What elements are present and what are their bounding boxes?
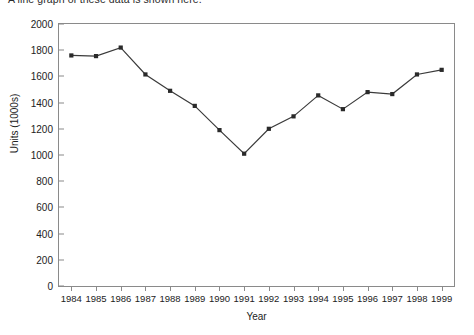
x-tick-mark <box>368 286 369 291</box>
y-tick-label: 1400 <box>31 97 59 108</box>
x-tick-mark <box>121 286 122 291</box>
data-point-marker <box>143 72 147 76</box>
x-tick-label: 1995 <box>332 293 353 304</box>
data-point-marker <box>69 53 73 57</box>
x-tick-mark <box>96 286 97 291</box>
data-point-marker <box>316 93 320 97</box>
data-point-marker <box>341 107 345 111</box>
x-tick-label: 1991 <box>234 293 255 304</box>
plot-area: 0200400600800100012001400160018002000 19… <box>58 23 455 287</box>
x-tick-mark <box>343 286 344 291</box>
data-point-marker <box>217 128 221 132</box>
data-point-marker <box>119 45 123 49</box>
chart-page: A line graph of these data is shown here… <box>0 0 474 335</box>
x-tick-label: 1996 <box>357 293 378 304</box>
y-tick-label: 1600 <box>31 71 59 82</box>
y-tick-label: 1200 <box>31 123 59 134</box>
x-tick-mark <box>294 286 295 291</box>
x-tick-label: 1989 <box>184 293 205 304</box>
y-tick-label: 800 <box>36 176 59 187</box>
data-point-marker <box>242 152 246 156</box>
x-tick-mark <box>417 286 418 291</box>
x-tick-label: 1993 <box>283 293 304 304</box>
data-point-marker <box>440 68 444 72</box>
x-tick-label: 1985 <box>85 293 106 304</box>
data-point-marker <box>415 72 419 76</box>
y-tick-label: 0 <box>47 281 59 292</box>
data-point-marker <box>291 114 295 118</box>
x-tick-label: 1992 <box>258 293 279 304</box>
y-axis-label: Units (1000s) <box>9 69 20 179</box>
series-line <box>71 48 441 154</box>
x-tick-label: 1997 <box>382 293 403 304</box>
x-tick-label: 1998 <box>406 293 427 304</box>
x-tick-mark <box>269 286 270 291</box>
x-tick-label: 1999 <box>431 293 452 304</box>
x-tick-mark <box>392 286 393 291</box>
data-point-marker <box>193 104 197 108</box>
data-series-units <box>59 24 454 286</box>
y-tick-label: 400 <box>36 228 59 239</box>
x-tick-mark <box>318 286 319 291</box>
x-tick-mark <box>219 286 220 291</box>
y-tick-label: 600 <box>36 202 59 213</box>
data-point-marker <box>94 54 98 58</box>
y-tick-label: 200 <box>36 254 59 265</box>
x-axis-label: Year <box>58 311 455 322</box>
x-tick-mark <box>71 286 72 291</box>
x-tick-mark <box>145 286 146 291</box>
line-chart: Units (1000s) Year 020040060080010001200… <box>0 0 474 335</box>
data-point-marker <box>390 92 394 96</box>
x-tick-mark <box>195 286 196 291</box>
x-tick-mark <box>442 286 443 291</box>
x-tick-label: 1987 <box>135 293 156 304</box>
x-tick-label: 1994 <box>308 293 329 304</box>
y-tick-label: 2000 <box>31 19 59 30</box>
y-tick-label: 1800 <box>31 45 59 56</box>
data-point-marker <box>267 127 271 131</box>
x-tick-label: 1990 <box>209 293 230 304</box>
x-tick-label: 1984 <box>61 293 82 304</box>
x-tick-label: 1988 <box>160 293 181 304</box>
x-tick-mark <box>170 286 171 291</box>
data-point-marker <box>365 90 369 94</box>
data-point-marker <box>168 89 172 93</box>
x-tick-mark <box>244 286 245 291</box>
y-tick-label: 1000 <box>31 150 59 161</box>
x-tick-label: 1986 <box>110 293 131 304</box>
